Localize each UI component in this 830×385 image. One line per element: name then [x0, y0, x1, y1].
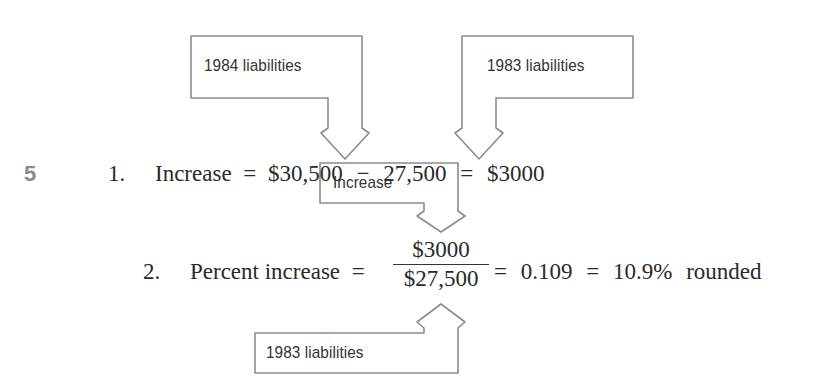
- callout-label-1983-liabilities: 1983 liabilities: [487, 56, 585, 76]
- line-1-number: 1.: [108, 161, 125, 187]
- callout-1983-liabilities-arrow-shape: [455, 36, 633, 159]
- fraction-denominator: $27,500: [393, 265, 489, 292]
- equation-line-1: 1. Increase = $30,500 − 27,500 = $3000: [108, 161, 545, 187]
- callout-label-1984-liabilities: 1984 liabilities: [204, 56, 302, 76]
- fraction-numerator: $3000: [393, 237, 489, 264]
- line-2-equals-3: =: [586, 259, 599, 285]
- line-2-note: rounded: [686, 259, 761, 285]
- callout-shapes: [0, 0, 830, 385]
- line-2-percent: 10.9%: [613, 259, 672, 285]
- equation-line-2-rhs: = 0.109 = 10.9% rounded: [494, 259, 762, 285]
- line-1-value-1984: $30,500: [268, 161, 343, 187]
- line-1-value-1983: 27,500: [383, 161, 446, 187]
- line-1-result: $3000: [487, 161, 545, 187]
- line-1-equals: =: [243, 161, 256, 187]
- equation-line-2-lhs: 2. Percent increase =: [143, 259, 365, 285]
- fraction: $3000 $27,500: [393, 237, 489, 292]
- line-1-minus: −: [357, 161, 370, 187]
- line-2-decimal: 0.109: [521, 259, 573, 285]
- line-2-lhs: Percent increase: [190, 259, 340, 285]
- line-2-equals-2: =: [494, 259, 507, 285]
- callout-1984-liabilities-arrow-shape: [191, 36, 369, 159]
- line-1-lhs: Increase: [155, 161, 232, 187]
- line-1-equals-2: =: [460, 161, 473, 187]
- step-marker: 5: [24, 161, 36, 187]
- line-2-equals: =: [352, 259, 365, 285]
- callout-label-1983-liabilities-bottom: 1983 liabilities: [266, 343, 364, 363]
- line-2-number: 2.: [143, 259, 160, 285]
